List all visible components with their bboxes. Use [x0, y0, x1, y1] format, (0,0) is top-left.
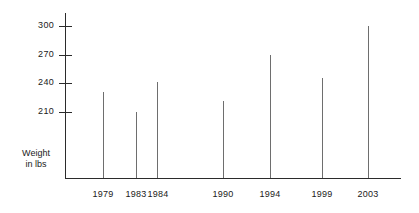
- y-axis-label-210: 210: [24, 107, 54, 116]
- y-axis-label-270: 270: [24, 50, 54, 59]
- x-axis-line: [65, 178, 401, 179]
- y-axis-label-300-wrap: 300: [18, 21, 54, 31]
- y-axis-label-240: 240: [24, 78, 54, 87]
- y-axis-tick: [59, 55, 72, 56]
- y-axis-line: [65, 13, 66, 179]
- y-axis-label-240-wrap: 240: [18, 78, 54, 88]
- x-axis-label-1984: 1984: [141, 190, 175, 199]
- y-axis-title-line-1: Weight: [14, 148, 58, 159]
- weight-by-year-chart: 300 270 240 210 Weight in lbs 1979 1983 …: [0, 0, 419, 213]
- y-axis-label-210-wrap: 210: [18, 107, 54, 117]
- y-axis-title: Weight in lbs: [14, 148, 58, 170]
- bar-1990: [223, 101, 224, 178]
- y-axis-tick: [59, 83, 72, 84]
- x-axis-label-1990: 1990: [206, 190, 240, 199]
- y-axis-tick: [59, 26, 72, 27]
- bar-1983: [136, 112, 137, 178]
- x-axis-label-2003: 2003: [351, 190, 385, 199]
- x-axis-label-1994: 1994: [253, 190, 287, 199]
- x-axis-label-1979: 1979: [86, 190, 120, 199]
- bar-1994: [270, 55, 271, 178]
- bar-1999: [322, 78, 323, 178]
- y-axis-label-270-wrap: 270: [18, 50, 54, 60]
- bar-1984: [157, 82, 158, 178]
- bar-2003: [368, 26, 369, 178]
- y-axis-label-300: 300: [24, 21, 54, 30]
- x-axis-label-1999: 1999: [305, 190, 339, 199]
- bar-1979: [103, 92, 104, 178]
- y-axis-tick: [59, 112, 72, 113]
- y-axis-title-line-2: in lbs: [14, 159, 58, 170]
